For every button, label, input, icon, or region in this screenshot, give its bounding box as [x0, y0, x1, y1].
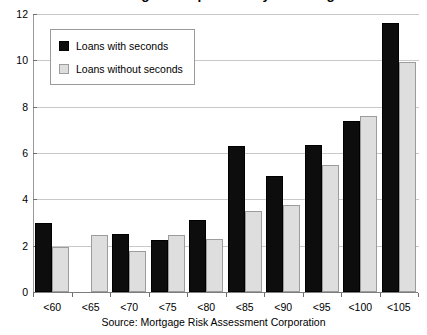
y-axis-tick-label: 2	[2, 241, 28, 251]
bar	[168, 235, 185, 292]
bar	[343, 121, 360, 292]
source-note: Source: Mortgage Risk Assessment Corpora…	[0, 316, 427, 329]
y-axis-tick-label: 6	[2, 148, 28, 158]
x-axis-tick-mark	[303, 293, 304, 297]
legend-item-loans-without-seconds: Loans without seconds	[59, 60, 183, 77]
bar	[228, 146, 245, 292]
chart-title: Percentage Delinquencies by LTV Range	[0, 0, 427, 2]
bar	[52, 247, 69, 292]
gridline	[34, 14, 419, 15]
bar	[206, 239, 223, 292]
y-axis-tick-label: 0	[2, 287, 28, 297]
y-axis-tick-label: 4	[2, 194, 28, 204]
x-axis-tick-mark	[226, 293, 227, 297]
gridline	[34, 107, 419, 108]
bar	[151, 240, 168, 292]
legend-swatch-icon-light	[59, 64, 69, 74]
x-axis-tick-mark	[380, 293, 381, 297]
x-axis-tick-mark	[418, 293, 419, 297]
bar	[305, 145, 322, 292]
bar	[129, 251, 146, 292]
y-axis-tick-label: 12	[2, 9, 28, 19]
x-axis-tick-mark	[149, 293, 150, 297]
bar	[245, 211, 262, 292]
y-axis-tick-mark	[33, 199, 37, 200]
y-axis-tick-mark	[33, 60, 37, 61]
y-axis-tick-label: 8	[2, 102, 28, 112]
bar	[91, 235, 108, 292]
y-axis-tick-mark	[33, 153, 37, 154]
x-axis-tick-mark	[264, 293, 265, 297]
x-axis-tick-mark	[33, 293, 34, 297]
x-axis-tick-mark	[341, 293, 342, 297]
bar	[189, 220, 206, 292]
y-axis: 024681012	[0, 0, 28, 335]
bar	[283, 205, 300, 292]
y-axis-tick-mark	[33, 14, 37, 15]
legend-item-loans-with-seconds: Loans with seconds	[59, 37, 183, 54]
chart-legend: Loans with seconds Loans without seconds	[50, 29, 195, 85]
x-axis-tick-mark	[187, 293, 188, 297]
bar	[322, 165, 339, 292]
x-axis-tick-label: <105	[372, 301, 426, 313]
y-axis-tick-label: 10	[2, 55, 28, 65]
x-axis-tick-mark	[110, 293, 111, 297]
bar	[266, 176, 283, 292]
bar-chart: Percentage Delinquencies by LTV Range 02…	[0, 0, 427, 335]
legend-label: Loans with seconds	[76, 40, 168, 52]
legend-label: Loans without seconds	[76, 63, 183, 75]
bar	[360, 116, 377, 292]
bar	[112, 234, 129, 292]
x-axis-tick-mark	[72, 293, 73, 297]
bar	[382, 23, 399, 292]
bar	[399, 62, 416, 293]
bar	[35, 223, 52, 293]
legend-swatch-icon-dark	[59, 41, 69, 51]
y-axis-tick-mark	[33, 107, 37, 108]
